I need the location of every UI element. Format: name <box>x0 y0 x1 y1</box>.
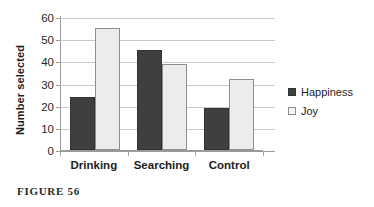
bar-happiness-searching <box>137 50 162 150</box>
x-axis-tick-label: Searching <box>128 159 196 171</box>
y-axis-tick-label: 20 <box>41 101 54 113</box>
category-separator-tick <box>263 151 264 156</box>
bar-group <box>61 18 128 150</box>
figure-bar-chart: Number selected 0102030405060 DrinkingSe… <box>0 0 374 207</box>
bar-groups <box>61 18 263 150</box>
joy-swatch-icon <box>288 107 296 115</box>
figure-caption: FIGURE 56 <box>17 185 80 197</box>
y-axis-tick-mark <box>56 129 60 130</box>
bar-happiness-control <box>204 108 229 150</box>
gridline <box>60 151 275 152</box>
legend-item-happiness[interactable]: Happiness <box>288 84 353 100</box>
bar-group <box>196 18 263 150</box>
legend-item-joy[interactable]: Joy <box>288 103 353 119</box>
y-axis-title-text: Number selected <box>14 45 26 135</box>
legend: HappinessJoy <box>288 84 353 122</box>
y-axis-tick-label: 0 <box>48 145 54 157</box>
y-axis-tick-label: 50 <box>41 34 54 46</box>
y-axis-tick-mark <box>56 107 60 108</box>
plot-area: 0102030405060 <box>60 18 263 151</box>
y-axis-title: Number selected <box>10 26 30 154</box>
x-axis-tick-label: Control <box>195 159 263 171</box>
y-axis-tick-mark <box>56 62 60 63</box>
y-axis-tick-mark <box>56 40 60 41</box>
legend-item-label: Joy <box>301 105 318 117</box>
y-axis-tick-label: 30 <box>41 79 54 91</box>
legend-item-label: Happiness <box>301 86 353 98</box>
bar-joy-control <box>229 79 254 150</box>
category-separator-tick <box>60 151 61 156</box>
y-axis-tick-label: 60 <box>41 12 54 24</box>
bar-joy-drinking <box>95 28 120 150</box>
bar-happiness-drinking <box>70 97 95 150</box>
happiness-swatch-icon <box>288 88 296 96</box>
x-axis-tick-labels: DrinkingSearchingControl <box>60 159 263 171</box>
bar-joy-searching <box>162 64 187 150</box>
y-axis-tick-mark <box>56 85 60 86</box>
y-axis-tick-label: 10 <box>41 123 54 135</box>
category-separator-tick <box>128 151 129 156</box>
y-axis-tick-mark <box>56 18 60 19</box>
x-axis-tick-label: Drinking <box>60 159 128 171</box>
category-separator-tick <box>195 151 196 156</box>
bar-group <box>128 18 195 150</box>
y-axis-tick-label: 40 <box>41 56 54 68</box>
